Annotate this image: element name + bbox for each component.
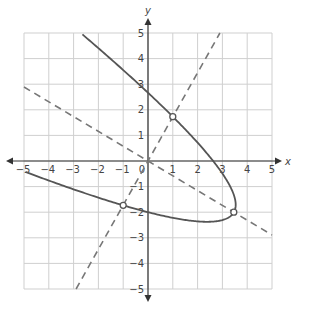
x-tick-label: 4: [244, 164, 250, 175]
x-axis-right-arrow-icon: [275, 158, 282, 165]
intersection-point: [120, 202, 126, 208]
x-axis-label: x: [284, 156, 291, 167]
x-tick-label: 2: [194, 164, 200, 175]
y-tick-label: −5: [129, 284, 144, 295]
y-tick-label: 4: [138, 53, 144, 64]
y-axis-label: y: [144, 5, 152, 16]
x-tick-label: −2: [90, 164, 105, 175]
axes: [6, 18, 282, 302]
x-axis-left-arrow-icon: [6, 158, 13, 165]
y-tick-label: 5: [138, 28, 144, 39]
intersection-point: [231, 209, 237, 215]
x-tick-label: −4: [40, 164, 55, 175]
coordinate-plane: −5−4−3−2−112345−5−4−3−2−1123450 x y: [0, 0, 310, 315]
y-axis-up-arrow-icon: [145, 18, 152, 25]
y-tick-label: 2: [138, 104, 144, 115]
intersection-point: [170, 114, 176, 120]
x-tick-label: 5: [269, 164, 275, 175]
y-tick-label: −4: [129, 258, 144, 269]
x-tick-label: −1: [115, 164, 130, 175]
x-tick-label: 1: [170, 164, 176, 175]
y-tick-label: 1: [138, 130, 144, 141]
y-tick-label: −3: [129, 232, 144, 243]
x-tick-label: −3: [65, 164, 80, 175]
y-axis-down-arrow-icon: [145, 295, 152, 302]
